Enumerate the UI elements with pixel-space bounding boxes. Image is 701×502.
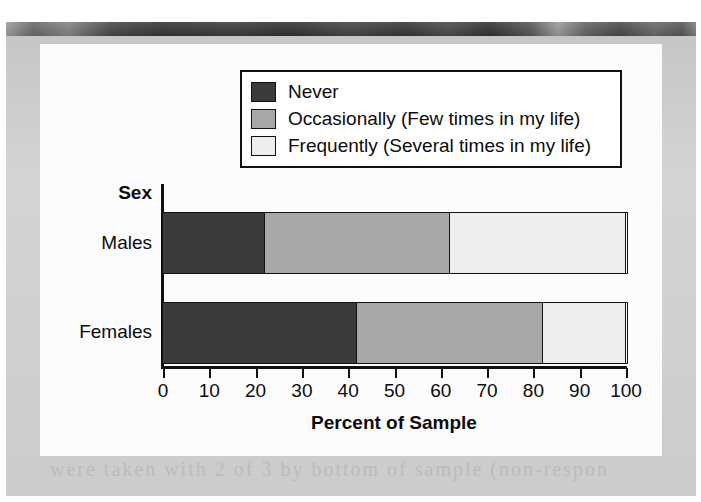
x-tick-10 [209,368,211,378]
bleed-through-text: were taken with 2 of 3 by bottom of samp… [50,458,610,484]
x-tick-label-100: 100 [610,380,642,402]
x-tick-90 [580,368,582,378]
bar-segment-males-2 [450,213,626,273]
figure-border-mat: Sex Males Females 0102030405060708090100… [6,36,696,496]
bar-males [163,212,628,274]
x-tick-label-70: 70 [477,380,498,402]
legend-item-never: Never [251,78,611,105]
x-tick-30 [302,368,304,378]
bar-segment-females-1 [357,303,542,363]
x-tick-0 [163,368,165,378]
x-tick-label-90: 90 [569,380,590,402]
x-tick-70 [487,368,489,378]
bar-segment-females-0 [163,303,357,363]
legend-label-frequently: Frequently (Several times in my life) [288,136,591,155]
category-label-males: Males [44,232,152,254]
x-tick-60 [441,368,443,378]
legend-label-never: Never [288,82,339,101]
bar-segment-males-1 [265,213,450,273]
legend-swatch-occasionally [251,109,276,129]
x-tick-100 [626,368,628,378]
y-axis-title: Sex [60,182,152,204]
chart-canvas: Sex Males Females 0102030405060708090100… [40,44,662,456]
x-tick-label-0: 0 [158,380,169,402]
x-tick-label-40: 40 [338,380,359,402]
x-tick-label-50: 50 [384,380,405,402]
scanned-figure-page: Sex Males Females 0102030405060708090100… [0,0,701,502]
x-tick-40 [348,368,350,378]
x-tick-label-30: 30 [291,380,312,402]
legend-swatch-never [251,82,276,102]
bar-females [163,302,628,364]
x-tick-label-80: 80 [523,380,544,402]
legend-item-frequently: Frequently (Several times in my life) [251,132,611,159]
legend: Never Occasionally (Few times in my life… [240,70,622,168]
x-tick-50 [395,368,397,378]
x-tick-label-10: 10 [199,380,220,402]
legend-item-occasionally: Occasionally (Few times in my life) [251,105,611,132]
x-tick-label-20: 20 [245,380,266,402]
x-tick-80 [533,368,535,378]
x-tick-20 [256,368,258,378]
x-axis-title: Percent of Sample [161,412,627,434]
bar-segment-females-2 [543,303,626,363]
legend-swatch-frequently [251,136,276,156]
category-label-females: Females [44,321,152,343]
legend-label-occasionally: Occasionally (Few times in my life) [288,109,580,128]
bar-segment-males-0 [163,213,265,273]
x-tick-label-60: 60 [430,380,451,402]
